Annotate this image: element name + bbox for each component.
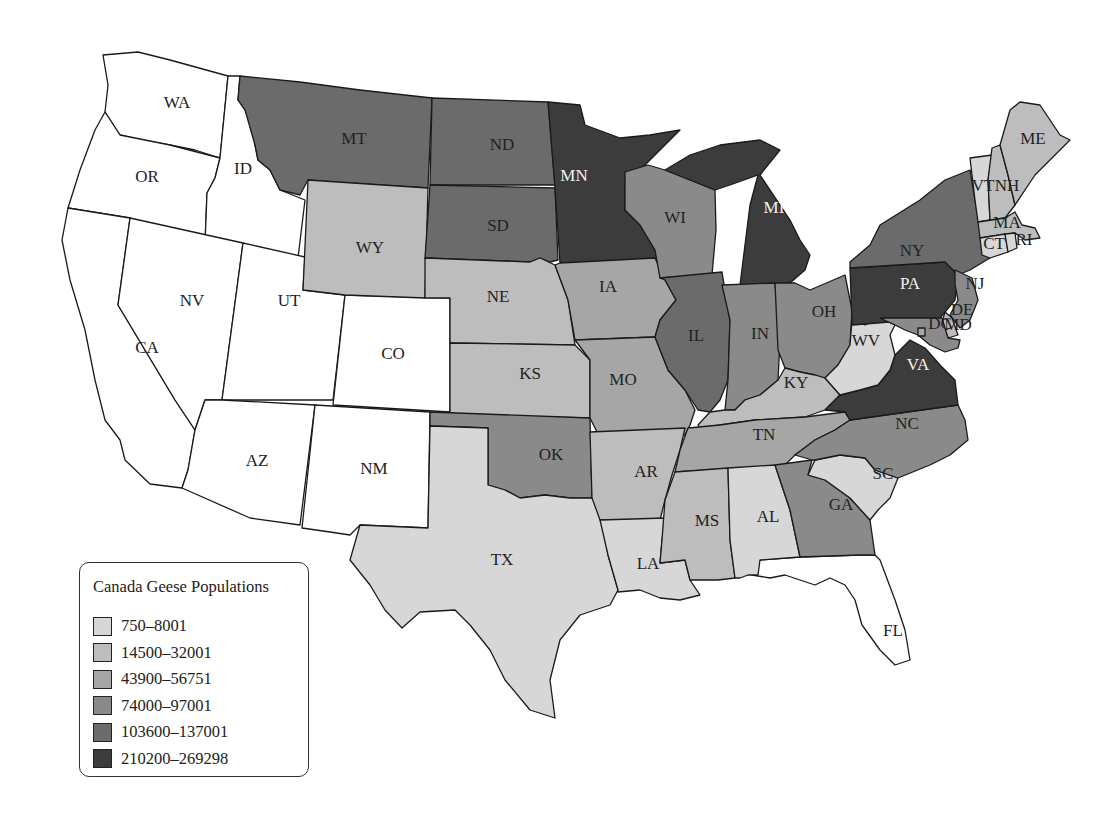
label-ks: KS: [519, 364, 541, 383]
label-ri: RI: [1016, 230, 1033, 249]
label-nc: NC: [895, 414, 919, 433]
label-mn: MN: [560, 166, 587, 185]
label-wv: WV: [852, 331, 881, 350]
label-nd: ND: [490, 135, 515, 154]
label-sd: SD: [487, 216, 509, 235]
legend-label: 74000–97001: [121, 696, 212, 716]
label-nm: NM: [360, 459, 387, 478]
label-mt: MT: [341, 129, 367, 148]
label-oh: OH: [812, 302, 837, 321]
legend-item: 750–8001: [93, 613, 298, 640]
legend-label: 14500–32001: [121, 643, 212, 663]
label-fl: FL: [883, 621, 903, 640]
label-id: ID: [234, 159, 252, 178]
label-ut: UT: [278, 291, 301, 310]
label-ca: CA: [135, 338, 159, 357]
label-mi: MI: [764, 198, 785, 217]
label-wa: WA: [164, 93, 191, 112]
label-tn: TN: [753, 425, 776, 444]
label-va: VA: [907, 355, 930, 374]
label-nv: NV: [180, 291, 205, 310]
label-ne: NE: [487, 287, 510, 306]
label-ny: NY: [900, 241, 925, 260]
legend-item: 103600–137001: [93, 719, 298, 746]
label-ia: IA: [599, 277, 618, 296]
label-pa: PA: [900, 274, 921, 293]
legend-swatch: [93, 749, 112, 768]
label-or: OR: [135, 167, 159, 186]
legend-swatch: [93, 670, 112, 689]
legend-label: 750–8001: [121, 616, 187, 636]
label-co: CO: [381, 344, 405, 363]
legend-swatch: [93, 643, 112, 662]
label-wy: WY: [356, 238, 384, 257]
label-me: ME: [1020, 129, 1046, 148]
label-tx: TX: [491, 550, 514, 569]
legend-swatch: [93, 617, 112, 636]
label-nj: NJ: [966, 274, 985, 293]
label-ok: OK: [539, 445, 564, 464]
legend-title: Canada Geese Populations: [93, 577, 298, 597]
label-ct: CT: [983, 234, 1005, 253]
legend-label: 103600–137001: [121, 722, 228, 742]
label-wi: WI: [664, 208, 686, 227]
label-sc: SC: [873, 464, 894, 483]
label-vt: VT: [972, 176, 995, 195]
state-dc[interactable]: [918, 328, 925, 336]
label-il: IL: [688, 326, 704, 345]
label-ga: GA: [829, 495, 854, 514]
label-ms: MS: [695, 511, 720, 530]
legend-item: 210200–269298: [93, 746, 298, 773]
legend-swatch: [93, 723, 112, 742]
legend: Canada Geese Populations 750–8001 14500–…: [79, 562, 309, 777]
legend-label: 210200–269298: [121, 749, 228, 769]
label-la: LA: [637, 554, 660, 573]
legend-item: 74000–97001: [93, 693, 298, 720]
legend-item: 43900–56751: [93, 666, 298, 693]
legend-label: 43900–56751: [121, 669, 212, 689]
label-az: AZ: [246, 451, 269, 470]
label-ar: AR: [634, 462, 658, 481]
state-fl[interactable]: [752, 555, 910, 665]
label-ky: KY: [784, 373, 809, 392]
label-al: AL: [757, 507, 780, 526]
label-mo: MO: [609, 370, 636, 389]
legend-swatch: [93, 696, 112, 715]
label-dc: DC: [928, 314, 952, 333]
legend-item: 14500–32001: [93, 640, 298, 667]
label-nh: NH: [995, 176, 1020, 195]
label-in: IN: [751, 324, 769, 343]
